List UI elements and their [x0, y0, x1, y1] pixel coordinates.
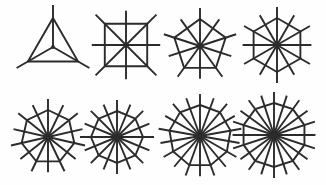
- octagon-web-hub: [114, 134, 120, 140]
- octagon-web-spoke: [117, 137, 143, 163]
- decagon-web: [233, 92, 316, 178]
- decagon-web-spoke: [274, 100, 299, 135]
- octagon-web: [80, 100, 154, 174]
- decagon-web-hub: [271, 132, 278, 139]
- decagon-web-spoke: [233, 135, 274, 148]
- octagon-web-spoke: [117, 111, 143, 137]
- figure-canvas: [0, 0, 326, 185]
- octagon-web-spoke: [91, 137, 117, 163]
- decagon-web-spoke: [274, 96, 287, 135]
- square-web-spoke: [126, 15, 156, 45]
- heptagon-web-spoke: [48, 137, 64, 171]
- decagon-web-spoke: [274, 135, 315, 148]
- decagon-web-spoke: [249, 100, 274, 135]
- hexagon-web: [243, 7, 312, 83]
- triangle-web-hub: [51, 45, 55, 49]
- decagon-web-spoke: [274, 135, 287, 174]
- heptagon-web-spoke: [33, 105, 48, 137]
- nonagon-web-hub: [197, 133, 203, 139]
- square-web-spoke: [96, 45, 126, 75]
- nonagon-web-spoke: [186, 136, 200, 175]
- heptagon-web-spoke: [48, 105, 63, 137]
- hexagon-web-hub: [274, 42, 279, 47]
- figure-group: [0, 0, 326, 185]
- heptagon-web-hub: [45, 134, 51, 140]
- decagon-web-spoke: [261, 96, 274, 135]
- octagon-web-spoke: [91, 111, 117, 137]
- decagon-web-spoke: [274, 122, 315, 135]
- nonagon-web: [159, 94, 242, 176]
- heptagon-web: [11, 99, 85, 172]
- square-web-hub: [124, 43, 128, 47]
- decagon-web-spoke: [261, 135, 274, 174]
- square-web-spoke: [96, 15, 126, 45]
- heptagon-web-spoke: [32, 137, 48, 171]
- square-web: [92, 11, 160, 79]
- decagon-web-spoke: [249, 135, 274, 170]
- triangle-web: [17, 5, 90, 68]
- pentagon-web-hub: [198, 44, 203, 49]
- pentagon-web: [164, 8, 236, 79]
- decagon-web-spoke: [274, 135, 299, 170]
- nonagon-web-spoke: [200, 136, 214, 175]
- square-web-spoke: [126, 45, 156, 75]
